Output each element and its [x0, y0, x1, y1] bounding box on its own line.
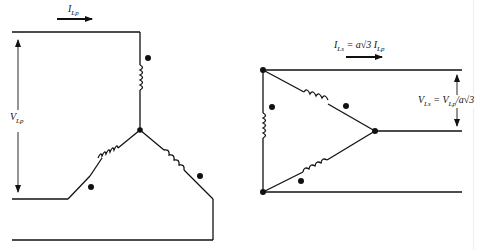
primary-coil-b-icon [98, 146, 118, 158]
secondary-wire [263, 70, 304, 92]
junction-node-icon [137, 127, 143, 133]
polarity-dot-icon [343, 103, 349, 109]
junction-node-icon [260, 67, 266, 73]
primary-wire [90, 158, 102, 176]
secondary-coil-b-icon [304, 90, 328, 100]
secondary-coil-a-icon [263, 113, 266, 138]
junction-node-icon [372, 128, 378, 134]
polarity-dot-icon [269, 104, 275, 110]
secondary-wire [328, 104, 375, 131]
primary-wire [140, 130, 164, 150]
delta-secondary-circuit [263, 70, 462, 192]
primary-coil-c-icon [164, 150, 184, 170]
polarity-dot-icon [197, 173, 203, 179]
secondary-current-label: ILs = a√3 ILp [334, 40, 384, 53]
wye-primary-circuit [12, 32, 213, 240]
primary-voltage-label: VLp [10, 112, 24, 125]
primary-current-label: ILp [68, 4, 79, 17]
polarity-dot-icon [88, 184, 94, 190]
secondary-coil-c-icon [303, 159, 327, 172]
primary-coil-a-icon [140, 65, 143, 90]
junction-node-icon [260, 189, 266, 195]
secondary-wire [263, 172, 303, 192]
polarity-dot-icon [298, 178, 304, 184]
secondary-voltage-label: VLs = VLp/a√3 [418, 95, 474, 108]
secondary-wire [327, 131, 375, 160]
transformer-wye-delta-diagram [0, 0, 496, 250]
primary-wire [118, 130, 140, 148]
primary-wire [68, 176, 90, 199]
polarity-dot-icon [145, 55, 151, 61]
